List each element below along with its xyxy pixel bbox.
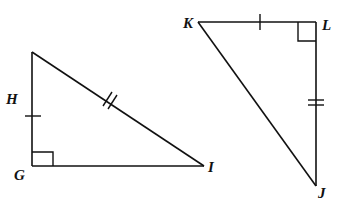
label-l: L (321, 17, 331, 33)
label-g: G (14, 167, 25, 183)
right-angle-marker-l (298, 22, 316, 41)
side-kj (198, 22, 316, 186)
right-angle-marker-g (32, 152, 53, 166)
label-h: H (5, 91, 19, 107)
geometry-diagram: H G I K L J (0, 0, 345, 200)
label-k: K (182, 15, 194, 31)
side-hi (32, 52, 204, 166)
triangle-klj: K L J (182, 14, 331, 200)
label-i: I (207, 159, 215, 175)
label-j: J (317, 185, 326, 200)
triangle-hgi: H G I (5, 52, 215, 183)
